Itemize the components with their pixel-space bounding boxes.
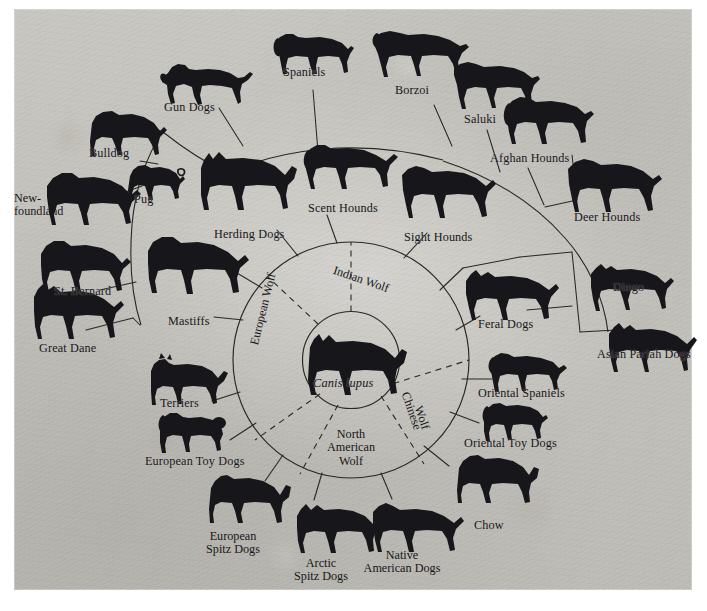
wolf-label-na-line3: Wolf xyxy=(311,455,391,468)
dog-afghan-icon xyxy=(504,97,594,144)
label-oriental-spaniels: Oriental Spaniels xyxy=(478,387,565,400)
dog-poodle-icon xyxy=(159,413,226,453)
dog-european-spitz-icon xyxy=(209,475,291,523)
label-great-dane: Great Dane xyxy=(39,342,96,355)
center-species-label: Canis lupus xyxy=(313,377,374,390)
label-eurspitz-line2: Spitz Dogs xyxy=(190,543,276,556)
wolf-label-na-line2: American xyxy=(311,441,391,454)
label-st-bernard: St. Bernard xyxy=(54,285,111,298)
dog-scent-hound-icon xyxy=(304,145,398,189)
dog-pointer-icon xyxy=(160,64,253,105)
label-sight-hounds: Sight Hounds xyxy=(404,231,473,244)
label-feral-dogs: Feral Dogs xyxy=(478,318,533,331)
dog-mastiff-icon xyxy=(148,237,249,294)
dog-sight-hound-icon xyxy=(402,166,496,218)
label-saluki: Saluki xyxy=(464,113,496,126)
label-european-toy-dogs: European Toy Dogs xyxy=(145,455,245,468)
label-asian-pariah-dogs: Asian Pariah Dogs xyxy=(597,348,691,361)
label-gun-dogs: Gun Dogs xyxy=(164,101,215,114)
dog-feral-icon xyxy=(466,270,559,320)
dog-deerhound-icon xyxy=(568,159,662,212)
label-pug: Pug xyxy=(134,193,153,206)
label-native-line2: American Dogs xyxy=(348,562,456,575)
label-terriers: Terriers xyxy=(160,397,199,410)
wolf-label-na-line1: North xyxy=(311,428,391,441)
label-afghan-hounds: Afghan Hounds xyxy=(490,152,569,165)
dog-chow-icon xyxy=(457,455,539,503)
label-native-line1: Native xyxy=(348,549,456,562)
label-newfoundland: New- foundland xyxy=(14,192,90,219)
label-bulldog: Bulldog xyxy=(89,147,129,160)
label-native-american-dogs: Native American Dogs xyxy=(348,549,456,576)
diagram-page: Canis lupus European Wolf Indian Wolf Ch… xyxy=(0,0,707,611)
label-spaniels: Spaniels xyxy=(283,66,326,79)
label-chow: Chow xyxy=(474,519,504,532)
label-borzoi: Borzoi xyxy=(395,84,429,97)
label-deer-hounds: Deer Hounds xyxy=(574,211,640,224)
label-oriental-toy-dogs: Oriental Toy Dogs xyxy=(464,437,557,450)
dog-herding-icon xyxy=(201,152,297,210)
label-newf-line1: New- xyxy=(14,192,90,205)
label-arctic-line2: Spitz Dogs xyxy=(278,570,364,583)
label-newf-line2: foundland xyxy=(14,205,90,218)
label-european-spitz-dogs: European Spitz Dogs xyxy=(190,530,276,557)
label-scent-hounds: Scent Hounds xyxy=(308,202,378,215)
label-arctic-line1: Arctic xyxy=(278,557,364,570)
dog-native-american-icon xyxy=(373,503,464,552)
label-arctic-spitz-dogs: Arctic Spitz Dogs xyxy=(278,557,364,584)
dog-arctic-spitz-icon xyxy=(297,504,383,553)
wolf-label-north-american: North American Wolf xyxy=(311,428,391,468)
label-eurspitz-line1: European xyxy=(190,530,276,543)
label-mastiffs: Mastiffs xyxy=(168,315,210,328)
label-herding-dogs: Herding Dogs xyxy=(214,228,285,241)
label-dingo: Dingo xyxy=(613,281,644,294)
